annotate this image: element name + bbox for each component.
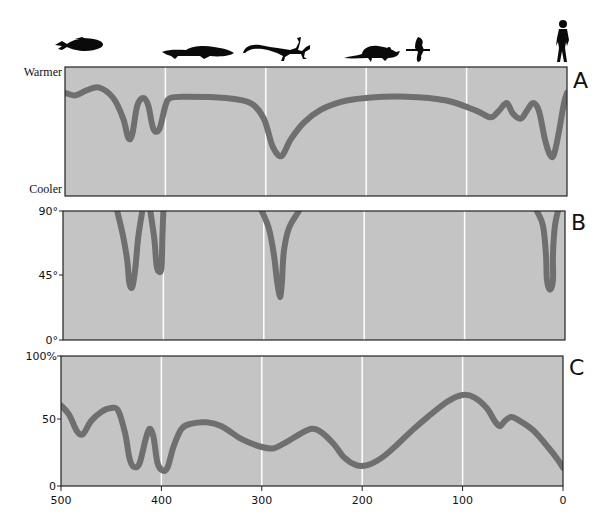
amphibian-icon xyxy=(162,46,234,59)
x-tick-label-100: 100 xyxy=(452,494,473,507)
tick-label-0: 0 xyxy=(49,480,56,493)
x-tick-label-400: 400 xyxy=(151,494,172,507)
rodent-icon xyxy=(344,46,400,62)
panel-c-percent: 100% 50 0 5004003002001000 C xyxy=(26,350,585,507)
tick-label-100: 100% xyxy=(26,350,57,363)
bird-icon xyxy=(406,37,430,62)
panel-a-temperature: Warmer Cooler A xyxy=(24,65,588,196)
tick-label-90: 90° xyxy=(39,205,59,218)
tick-label-45: 45° xyxy=(39,269,59,282)
fish-icon xyxy=(55,37,103,51)
panel-b-angle: 90° 45° 0° B xyxy=(39,205,587,347)
x-axis-ticks: 5004003002001000 xyxy=(51,486,567,507)
human-icon xyxy=(556,20,569,62)
panel-a-background xyxy=(65,67,567,196)
tick-label-50: 50 xyxy=(42,413,56,426)
panel-b-letter: B xyxy=(571,210,586,235)
warmer-label: Warmer xyxy=(24,65,62,79)
x-tick-label-500: 500 xyxy=(51,494,72,507)
x-tick-label-200: 200 xyxy=(352,494,373,507)
x-tick-label-300: 300 xyxy=(251,494,272,507)
panel-c-letter: C xyxy=(569,355,584,380)
x-tick-label-0: 0 xyxy=(560,494,567,507)
cooler-label: Cooler xyxy=(29,182,62,196)
figure: Warmer Cooler A 90° 45° 0° B 100% 50 0 5… xyxy=(0,0,612,526)
tick-label-0: 0° xyxy=(46,334,59,347)
silhouettes-row xyxy=(55,20,569,62)
lizard-icon xyxy=(243,37,310,61)
panel-a-letter: A xyxy=(573,68,588,93)
